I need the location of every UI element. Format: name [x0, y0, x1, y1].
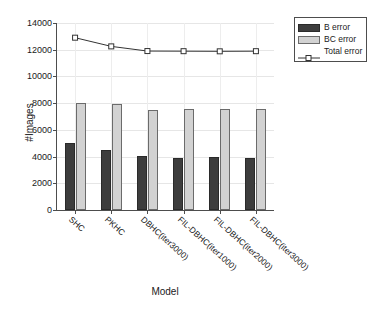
x-axis-tick	[111, 210, 112, 214]
y-gridline	[57, 183, 274, 184]
y-axis-tick-label: 10000	[27, 72, 52, 81]
y-axis-tick	[53, 50, 57, 51]
legend-entry-b-error: B error	[298, 22, 362, 33]
legend-swatch-b-error-icon	[298, 24, 320, 32]
y-axis-tick	[53, 103, 57, 104]
total-error-line-series	[57, 23, 274, 210]
bar-bc-error-1	[112, 104, 122, 210]
bar-bc-error-0	[76, 103, 86, 210]
legend-entry-total-error: Total error	[298, 46, 362, 57]
y-gridline	[57, 103, 274, 104]
y-gridline	[57, 130, 274, 131]
y-axis-tick	[53, 23, 57, 24]
bar-bc-error-3	[184, 109, 194, 210]
y-axis-tick-label: 14000	[27, 19, 52, 28]
bar-b-error-3	[173, 158, 183, 210]
bar-b-error-2	[137, 156, 147, 210]
y-gridline	[57, 157, 274, 158]
x-axis-tick	[75, 210, 76, 214]
legend-label-total-error: Total error	[324, 47, 362, 56]
bar-b-error-4	[209, 157, 219, 210]
x-axis-tick-label: PKHC	[103, 215, 127, 237]
legend-label-b-error: B error	[324, 23, 350, 32]
y-axis-tick	[53, 183, 57, 184]
y-axis-tick-label: 2000	[32, 179, 52, 188]
x-axis-tick	[184, 210, 185, 214]
legend-label-bc-error: BC error	[324, 35, 356, 44]
legend-entry-bc-error: BC error	[298, 34, 362, 45]
x-axis-tick	[220, 210, 221, 214]
bar-bc-error-2	[148, 110, 158, 210]
bar-b-error-5	[245, 158, 255, 210]
x-axis-tick-label: FIL-DBHC(iter3000)	[248, 215, 310, 272]
bar-b-error-1	[101, 150, 111, 210]
y-gridline	[57, 23, 274, 24]
y-axis-tick-label: 6000	[32, 125, 52, 134]
y-axis-tick-label: 8000	[32, 99, 52, 108]
x-axis-tick	[147, 210, 148, 214]
y-axis-tick-label: 0	[47, 206, 52, 215]
legend-swatch-bc-error-icon	[298, 36, 320, 44]
y-axis-tick	[53, 130, 57, 131]
bar-bc-error-4	[220, 109, 230, 210]
x-axis-tick	[256, 210, 257, 214]
y-axis-tick	[53, 157, 57, 158]
bar-b-error-0	[65, 143, 75, 210]
y-axis-tick-label: 4000	[32, 152, 52, 161]
legend-line-total-error-icon	[298, 48, 320, 56]
y-gridline	[57, 76, 274, 77]
plot-area: 02000400060008000100001200014000SHCPKHCD…	[56, 23, 274, 211]
chart-figure: #Images 02000400060008000100001200014000…	[0, 0, 379, 309]
y-axis-title: #Images	[24, 103, 35, 141]
y-axis-tick	[53, 210, 57, 211]
y-gridline	[57, 50, 274, 51]
bar-bc-error-5	[256, 109, 266, 211]
x-axis-tick-label: SHC	[67, 215, 86, 234]
x-axis-title: Model	[0, 286, 330, 297]
y-axis-tick-label: 12000	[27, 45, 52, 54]
y-axis-tick	[53, 76, 57, 77]
chart-legend: B error BC error Total error	[294, 17, 367, 62]
